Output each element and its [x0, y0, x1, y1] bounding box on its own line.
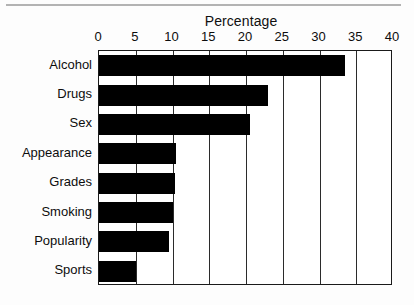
bar-grades	[99, 173, 175, 194]
y-label-smoking: Smoking	[0, 204, 92, 219]
y-label-sports: Sports	[0, 262, 92, 277]
bar-sports	[99, 261, 136, 282]
bar-popularity	[99, 231, 169, 252]
y-label-alcohol: Alcohol	[0, 57, 92, 72]
y-label-sex: Sex	[0, 115, 92, 130]
x-tick-label-5: 5	[131, 29, 138, 44]
x-tick-label-35: 35	[348, 29, 362, 44]
bar-sex	[99, 114, 250, 135]
y-label-appearance: Appearance	[0, 145, 92, 160]
chart-title: Percentage	[0, 13, 414, 29]
y-label-drugs: Drugs	[0, 86, 92, 101]
bar-appearance	[99, 143, 176, 164]
x-tick-label-15: 15	[201, 29, 215, 44]
x-tick-label-10: 10	[164, 29, 178, 44]
x-tick-label-0: 0	[94, 29, 101, 44]
page-top-rule	[6, 4, 401, 6]
bar-series	[99, 51, 391, 284]
bar-drugs	[99, 85, 268, 106]
y-label-grades: Grades	[0, 174, 92, 189]
bar-alcohol	[99, 55, 345, 76]
bar-smoking	[99, 202, 173, 223]
bar-chart-figure: Percentage 0510152025303540 AlcoholDrugs…	[0, 0, 414, 305]
x-tick-label-20: 20	[238, 29, 252, 44]
y-label-popularity: Popularity	[0, 233, 92, 248]
x-tick-label-25: 25	[275, 29, 289, 44]
x-tick-label-30: 30	[311, 29, 325, 44]
x-tick-label-40: 40	[385, 29, 399, 44]
plot-area	[98, 50, 392, 285]
